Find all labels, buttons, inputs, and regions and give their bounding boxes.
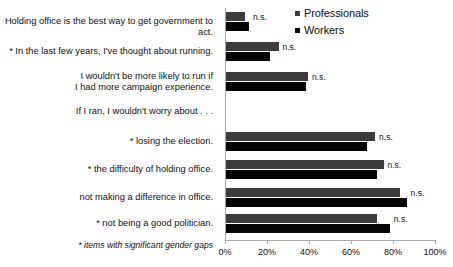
bar-professionals [226, 160, 384, 169]
bar-workers [226, 198, 407, 207]
x-axis-tick-label: 40% [300, 247, 318, 257]
category-label-list: Holding office is the best way to get go… [0, 0, 219, 240]
bar-professionals [226, 72, 308, 81]
significance-annotation: n.s. [283, 43, 297, 52]
significance-annotation: n.s. [394, 215, 408, 224]
bar-professionals [226, 132, 375, 141]
significance-annotation: n.s. [379, 133, 393, 142]
x-axis-tick [393, 240, 394, 244]
bar-professionals [226, 214, 377, 223]
category-label: If I ran, I wouldn't worry about . . . [0, 106, 219, 117]
bar-chart: Holding office is the best way to get go… [0, 0, 453, 267]
significance-annotation: n.s. [312, 73, 326, 82]
category-label: * In the last few years, I've thought ab… [0, 46, 219, 57]
bar-professionals [226, 188, 400, 197]
x-axis-tick-label: 60% [342, 247, 360, 257]
bar-workers [226, 224, 390, 233]
x-axis-line [225, 240, 435, 241]
x-axis-tick-label: 100% [423, 247, 446, 257]
bar-workers [226, 170, 377, 179]
plot-area: 0%20%40%60%80%100%n.s.n.s.n.s.n.s.n.s.n.… [225, 8, 435, 240]
x-axis-tick-label: 80% [384, 247, 402, 257]
bar-workers [226, 82, 306, 91]
x-axis-tick-label: 20% [258, 247, 276, 257]
significance-annotation: n.s. [253, 13, 267, 22]
significance-annotation: n.s. [388, 161, 402, 170]
x-axis-tick [309, 240, 310, 244]
x-axis-tick [267, 240, 268, 244]
bar-workers [226, 142, 367, 151]
x-axis-tick-label: 0% [218, 247, 231, 257]
bar-professionals [226, 12, 245, 21]
category-label: I wouldn't be more likely to run if I ha… [0, 71, 219, 93]
x-axis-tick [351, 240, 352, 244]
bar-workers [226, 52, 270, 61]
x-axis-tick [435, 240, 436, 244]
x-axis-tick [225, 240, 226, 244]
chart-footnote: * items with significant gender gaps [0, 240, 219, 250]
category-label: not making a difference in office. [0, 192, 219, 203]
category-label: * not being a good politician. [0, 218, 219, 229]
bar-professionals [226, 42, 279, 51]
category-label: * losing the election. [0, 136, 219, 147]
category-label: Holding office is the best way to get go… [0, 16, 219, 38]
significance-annotation: n.s. [411, 189, 425, 198]
category-label: * the difficulty of holding office. [0, 164, 219, 175]
bar-workers [226, 22, 249, 31]
